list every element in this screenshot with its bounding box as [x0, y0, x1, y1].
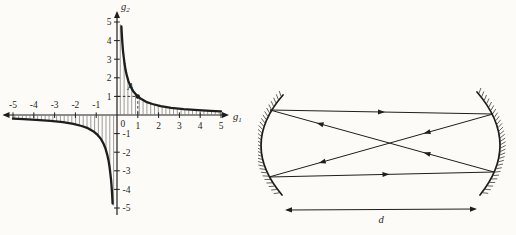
ray-diagonal-up: [270, 110, 494, 172]
ray-direction-arrow-icon: [319, 159, 326, 164]
ray-direction-arrow-icon: [423, 152, 430, 157]
point-a-label: A: [127, 82, 134, 92]
y-tick-label: -3: [123, 166, 131, 176]
y-tick-label: 4: [107, 36, 112, 46]
ray-direction-arrow-icon: [382, 172, 389, 177]
x-tick-label: 4: [198, 121, 203, 131]
x-axis-arrow-icon: [222, 112, 229, 118]
axes: [4, 13, 227, 215]
point-a-marker: [136, 94, 140, 98]
y-tick-label: 2: [107, 73, 112, 83]
ray-direction-arrow-icon: [424, 129, 431, 134]
x-tick-label: -2: [71, 100, 79, 110]
x-axis-left-arrow-icon: [3, 112, 10, 118]
ray-bottom: [269, 172, 494, 177]
y-tick-label: -2: [123, 148, 131, 158]
x-tick-label: 2: [156, 121, 161, 131]
y-tick-label: -1: [123, 129, 131, 139]
hyperbola-branch: [13, 119, 113, 204]
hyperbola-branch: [121, 27, 221, 112]
ray-direction-arrow-icon: [378, 109, 385, 114]
x-tick-label: 5: [219, 121, 224, 131]
x-tick-label: -1: [92, 100, 100, 110]
y-axis-arrow-icon: [114, 11, 120, 18]
x-tick-label: 3: [177, 121, 182, 131]
y-tick-label: 1: [107, 92, 112, 102]
distance-dimension: [285, 206, 477, 212]
y-tick-label: -5: [123, 203, 131, 213]
distance-label: d: [378, 214, 384, 225]
left-concave-mirror: [258, 91, 283, 195]
dimension-left-arrow-icon: [285, 207, 292, 212]
right-concave-mirror: [477, 88, 506, 195]
y-tick-label: 3: [107, 55, 112, 65]
ray-top: [270, 109, 493, 114]
x-axis-title: g1: [233, 111, 242, 125]
x-tick-label: 1: [135, 121, 140, 131]
stability-chart: -5-4-3-2-11234554321-1-2-3-4-5g1g2 A 0: [0, 0, 258, 235]
x-tick-label: -5: [9, 100, 17, 110]
ray-diagonal-down: [269, 114, 493, 177]
x-tick-label: -4: [30, 100, 38, 110]
dimension-right-arrow-icon: [470, 206, 477, 211]
ray-direction-arrow-icon: [317, 122, 324, 127]
x-tick-label: -3: [51, 100, 59, 110]
textbook-figure: -5-4-3-2-11234554321-1-2-3-4-5g1g2 A 0 d: [0, 0, 516, 235]
y-tick-label: -4: [123, 185, 131, 195]
resonator-diagram: d: [258, 0, 516, 235]
mirror-surface: [477, 92, 500, 195]
y-axis-title: g2: [121, 1, 130, 15]
origin-label: 0: [121, 119, 126, 129]
y-tick-label: 5: [107, 17, 112, 27]
